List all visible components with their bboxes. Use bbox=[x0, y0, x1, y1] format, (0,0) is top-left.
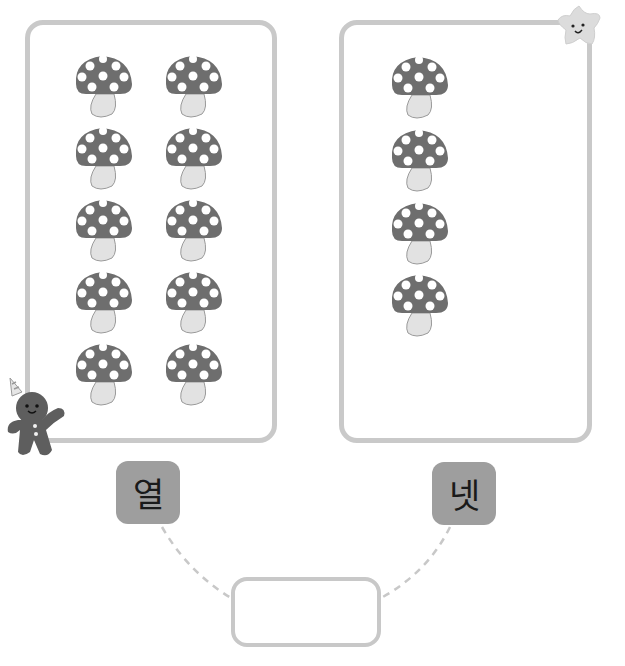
right-number-label: 넷 bbox=[432, 462, 496, 525]
dashed-connector-lines bbox=[0, 0, 625, 666]
left-number-label: 열 bbox=[116, 461, 180, 524]
answer-input-box[interactable] bbox=[231, 577, 381, 647]
